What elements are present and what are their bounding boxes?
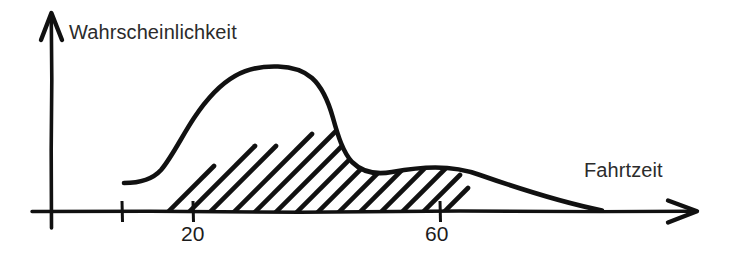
hatch-line bbox=[322, 131, 420, 229]
x-tick-mark-first bbox=[122, 201, 123, 222]
y-axis-label: Wahrscheinlichkeit bbox=[69, 21, 237, 44]
hatch-line bbox=[217, 134, 312, 229]
sketch-figure: Wahrscheinlichkeit Fahrtzeit 20 60 bbox=[0, 0, 731, 264]
hatch-line bbox=[175, 146, 255, 226]
hatch-line bbox=[196, 146, 276, 226]
y-axis-line bbox=[51, 20, 52, 228]
axes-group bbox=[32, 13, 697, 228]
x-tick-label-20: 20 bbox=[181, 222, 204, 246]
hatch-line bbox=[343, 140, 432, 229]
hatch-line bbox=[364, 149, 444, 229]
x-axis-label: Fahrtzeit bbox=[584, 159, 663, 182]
x-tick-mark-60 bbox=[440, 201, 441, 222]
x-tick-label-60: 60 bbox=[425, 222, 448, 246]
x-tick-mark-20 bbox=[193, 201, 194, 222]
